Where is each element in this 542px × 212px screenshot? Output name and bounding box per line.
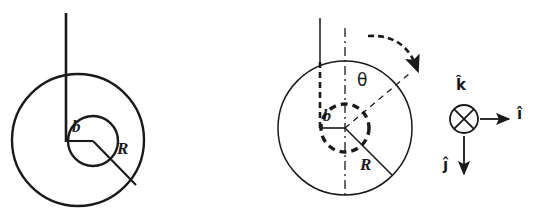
label-j-hat: ĵ (443, 158, 448, 173)
label-R-right: R (360, 156, 371, 173)
right-rotation-arrow-dashed (368, 36, 416, 66)
panel-left-group (12, 13, 144, 206)
label-b-left: b (72, 118, 81, 135)
right-angle-theta-line (345, 74, 409, 128)
label-b-right: b (323, 108, 331, 124)
unit-vector-triad-group (450, 105, 509, 174)
label-theta: θ (357, 72, 367, 89)
label-R-left: R (117, 140, 128, 157)
label-i-hat: î (517, 107, 522, 122)
label-k-hat: k̂ (456, 78, 466, 93)
figure-vector-layer (0, 0, 542, 212)
left-radius-R-line (93, 141, 136, 185)
panel-right-group (278, 18, 416, 196)
physics-figure: b R θ b R k̂ î ĵ (0, 0, 542, 212)
